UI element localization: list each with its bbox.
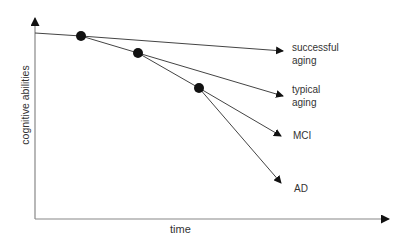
successful-aging-label-line1: successful xyxy=(292,42,339,54)
typical-aging-label-line1: typical xyxy=(292,84,320,96)
typical-aging-label-line2: aging xyxy=(292,97,320,109)
typical-aging-label: typical aging xyxy=(292,84,320,109)
mci-label: MCI xyxy=(293,130,311,142)
ad-label: AD xyxy=(294,183,308,195)
y-axis-label: cognitive abilities xyxy=(19,45,31,165)
branch-point-1 xyxy=(76,31,86,41)
mci-arrow xyxy=(199,88,281,136)
decline-segment-2 xyxy=(138,53,199,88)
ad-arrow xyxy=(199,88,281,183)
successful-aging-arrow xyxy=(81,36,283,51)
successful-aging-label: successful aging xyxy=(292,42,339,67)
common-trajectory-segment xyxy=(35,33,81,36)
x-axis-label: time xyxy=(170,223,191,235)
branch-point-3 xyxy=(194,83,204,93)
branch-point-2 xyxy=(133,48,143,58)
cognitive-decline-diagram xyxy=(0,0,406,240)
typical-aging-arrow xyxy=(138,53,283,96)
ad-label-text: AD xyxy=(294,183,308,195)
mci-label-text: MCI xyxy=(293,130,311,142)
successful-aging-label-line2: aging xyxy=(292,55,339,67)
